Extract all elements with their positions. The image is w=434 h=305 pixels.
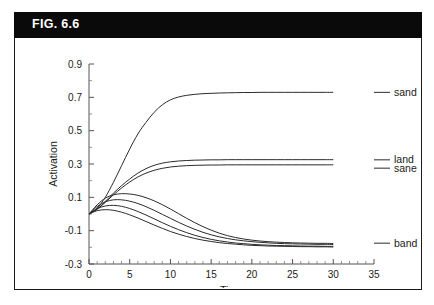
y-tick-label: 0.5	[68, 125, 82, 136]
y-axis-title: Activation	[47, 141, 59, 187]
curve-unlabeled-curve-3	[89, 210, 333, 247]
y-tick-label: -0.3	[65, 259, 83, 270]
curve-label-band: band	[394, 237, 418, 249]
curve-label-sand: sand	[394, 86, 417, 98]
curve-sand	[89, 92, 333, 214]
y-tick-label: 0.9	[68, 59, 82, 70]
y-tick-label: 0.1	[68, 192, 82, 203]
x-tick-label: 10	[165, 269, 177, 280]
x-tick-label: 20	[246, 269, 258, 280]
figure-page: FIG. 6.6 05101520253035-0.3-0.10.10.30.5…	[0, 0, 434, 305]
curve-unlabeled-curve-1	[89, 200, 333, 245]
x-tick-label: 30	[328, 269, 340, 280]
x-tick-label: 35	[368, 269, 380, 280]
y-tick-label: 0.3	[68, 159, 82, 170]
chart-curve-labels: sandlandsaneband	[374, 86, 418, 249]
figure-body: 05101520253035-0.3-0.10.10.30.50.70.9 sa…	[14, 38, 422, 290]
x-tick-label: 25	[287, 269, 299, 280]
y-tick-label: -0.1	[65, 225, 83, 236]
curve-sane	[89, 165, 333, 214]
curve-land	[89, 160, 333, 214]
curve-unlabeled-curve-2	[89, 205, 333, 246]
figure-banner: FIG. 6.6	[14, 12, 422, 38]
x-tick-label: 0	[86, 269, 92, 280]
activation-time-line-chart: 05101520253035-0.3-0.10.10.30.50.70.9 sa…	[15, 38, 421, 288]
curve-label-sane: sane	[394, 162, 417, 174]
x-tick-label: 5	[127, 269, 133, 280]
x-tick-label: 15	[206, 269, 218, 280]
y-tick-label: 0.7	[68, 92, 82, 103]
figure-container: FIG. 6.6 05101520253035-0.3-0.10.10.30.5…	[14, 12, 422, 290]
chart-curves	[89, 92, 333, 247]
curve-band	[89, 194, 333, 244]
figure-number-label: FIG. 6.6	[32, 17, 80, 31]
x-axis-title: Time	[220, 284, 243, 288]
